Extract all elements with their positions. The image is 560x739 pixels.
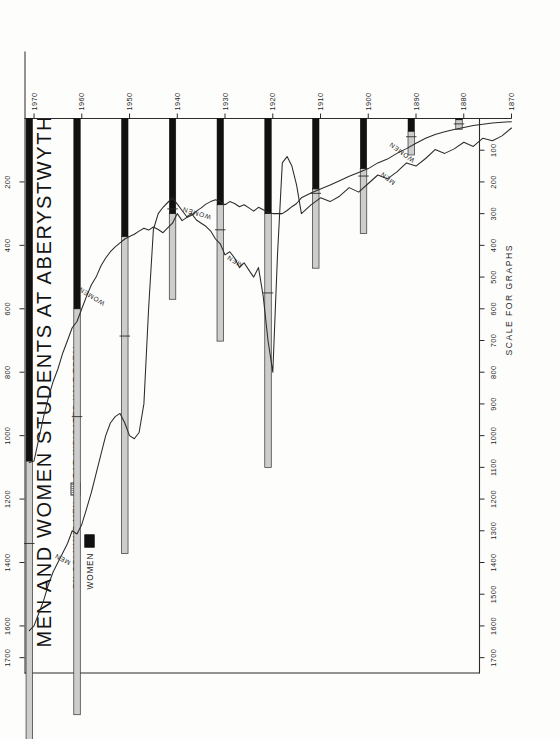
graphs-tick-800: 800: [488, 365, 497, 379]
graphs-tick-1000: 1000: [488, 426, 497, 444]
year-tick-1910: 1910: [316, 92, 325, 110]
year-axis-ticks: [24, 113, 511, 118]
graphs-tick-400: 400: [488, 238, 497, 252]
columns-tick-400: 400: [2, 238, 11, 252]
rotated-chart-canvas: MEN AND WOMEN STUDENTS AT ABERYSTWYTH ON…: [0, 0, 560, 739]
scanned-page: MEN AND WOMEN STUDENTS AT ABERYSTWYTH ON…: [0, 0, 560, 739]
year-tick-1950: 1950: [125, 92, 134, 110]
graphs-axis-title: SCALE FOR GRAPHS: [503, 244, 513, 355]
chart-drawing: [0, 0, 560, 739]
columns-tick-1400: 1400: [2, 553, 11, 571]
graphs-tick-200: 200: [488, 175, 497, 189]
graphs-tick-600: 600: [488, 302, 497, 316]
graphs-tick-300: 300: [488, 206, 497, 220]
year-tick-1930: 1930: [220, 92, 229, 110]
year-tick-1900: 1900: [363, 92, 372, 110]
graphs-tick-1700: 1700: [488, 648, 497, 666]
columns-tick-1600: 1600: [2, 616, 11, 634]
columns-tick-600: 600: [2, 302, 11, 316]
columns-axis-ticks: [19, 181, 24, 657]
graphs-tick-1300: 1300: [488, 521, 497, 539]
graphs-tick-1600: 1600: [488, 616, 497, 634]
graphs-tick-1400: 1400: [488, 553, 497, 571]
year-tick-1940: 1940: [172, 92, 181, 110]
graphs-tick-900: 900: [488, 397, 497, 411]
graphs-tick-700: 700: [488, 333, 497, 347]
graphs-tick-1200: 1200: [488, 490, 497, 508]
graphs-tick-100: 100: [488, 143, 497, 157]
columns-tick-1200: 1200: [2, 490, 11, 508]
year-tick-1970: 1970: [29, 92, 38, 110]
graphs-tick-500: 500: [488, 270, 497, 284]
year-tick-1880: 1880: [459, 92, 468, 110]
columns-tick-200: 200: [2, 175, 11, 189]
year-tick-1960: 1960: [77, 92, 86, 110]
columns-tick-800: 800: [2, 365, 11, 379]
column-bars: [24, 118, 464, 739]
graphs-axis-ticks: [479, 118, 484, 673]
columns-tick-1000: 1000: [2, 426, 11, 444]
year-tick-1890: 1890: [411, 92, 420, 110]
year-tick-1920: 1920: [268, 92, 277, 110]
chart-plot-area: MEN AND WOMEN STUDENTS AT ABERYSTWYTH ON…: [0, 0, 560, 739]
graphs-tick-1100: 1100: [488, 458, 497, 476]
year-tick-1870: 1870: [507, 92, 516, 110]
columns-tick-1700: 1700: [2, 648, 11, 666]
graphs-tick-1500: 1500: [488, 585, 497, 603]
